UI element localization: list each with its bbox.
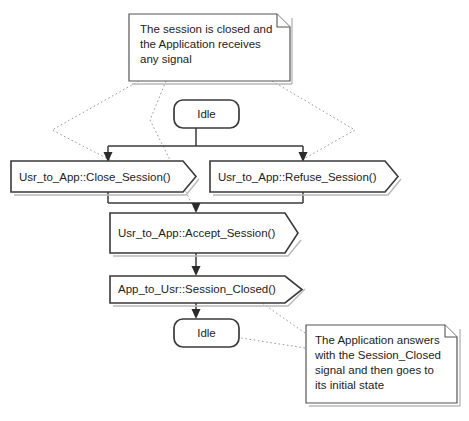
- note-application-answers: The Application answers with the Session…: [306, 325, 460, 406]
- state-idle-bottom-label: Idle: [197, 327, 216, 339]
- note-top-line-2: any signal: [140, 53, 192, 65]
- note-bottom-line-0: The Application answers: [315, 334, 440, 346]
- state-idle-bottom[interactable]: Idle: [174, 319, 239, 347]
- arrowhead-to-session-closed: [192, 266, 201, 276]
- state-idle-top-label: Idle: [197, 108, 216, 120]
- diagram-canvas: The session is closed and the Applicatio…: [0, 0, 469, 421]
- anchor-bottom-note-to-idle: [241, 338, 305, 348]
- state-diagram: The session is closed and the Applicatio…: [0, 0, 469, 421]
- signal-refuse-session[interactable]: Usr_to_App::Refuse_Session(): [210, 161, 401, 195]
- note-bottom-line-3: its initial state: [315, 379, 384, 391]
- signal-session-closed-label: App_to_Usr::Session_Closed(): [118, 283, 276, 295]
- note-session-closed-condition: The session is closed and the Applicatio…: [129, 14, 292, 84]
- arrowhead-to-idle-bottom: [192, 309, 201, 319]
- note-bottom-fold-icon: [445, 325, 457, 337]
- signal-close-session-label: Usr_to_App::Close_Session(): [19, 171, 171, 183]
- note-bottom-line-1: with the Session_Closed: [314, 349, 441, 361]
- anchor-top-note-to-close-session: [52, 81, 139, 161]
- signal-close-session[interactable]: Usr_to_App::Close_Session(): [11, 161, 199, 195]
- signal-accept-session[interactable]: Usr_to_App::Accept_Session(): [110, 213, 301, 256]
- signal-accept-session-label: Usr_to_App::Accept_Session(): [118, 227, 275, 239]
- signal-refuse-session-label: Usr_to_App::Refuse_Session(): [218, 171, 377, 183]
- anchor-top-note-to-refuse-session: [272, 81, 355, 161]
- arrowhead-to-accept-session: [192, 203, 201, 213]
- signal-session-closed[interactable]: App_to_Usr::Session_Closed(): [110, 276, 305, 306]
- note-bottom-line-2: signal and then goes to: [315, 364, 434, 376]
- note-top-line-0: The session is closed and: [140, 23, 272, 35]
- anchor-bottom-note-to-session-closed: [262, 303, 305, 333]
- note-top-line-1: the Application receives: [140, 38, 261, 50]
- state-idle-top[interactable]: Idle: [174, 100, 239, 128]
